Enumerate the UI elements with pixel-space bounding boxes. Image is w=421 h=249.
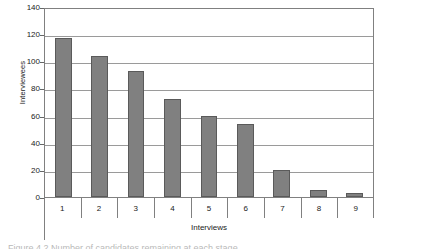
bar-slot [300, 9, 336, 197]
bar-series [45, 9, 373, 197]
bar-slot [81, 9, 117, 197]
y-tick-label: 20 [31, 167, 40, 175]
bar-slot [45, 9, 81, 197]
bar-slot [264, 9, 300, 197]
y-tick-label: 60 [31, 113, 40, 121]
bar-1 [55, 38, 72, 197]
x-category-label: 2 [81, 198, 118, 218]
bar-5 [201, 116, 218, 197]
x-category-label: 3 [117, 198, 154, 218]
bar-7 [273, 170, 290, 197]
y-tick-label: 40 [31, 140, 40, 148]
bar-slot [154, 9, 190, 197]
bar-4 [164, 99, 181, 197]
x-axis-title: Interviews [44, 223, 374, 232]
bar-8 [310, 190, 327, 197]
y-axis-tick-labels: 020406080100120140 [14, 8, 40, 198]
y-tick-label: 120 [27, 31, 40, 39]
x-category-label: 1 [44, 198, 81, 218]
y-tick-label: 140 [27, 4, 40, 12]
bar-slot [227, 9, 263, 197]
cropped-caption: Figure 4.2 Number of candidates remainin… [8, 243, 338, 249]
x-category-label: 9 [337, 198, 374, 218]
y-tick-label: 80 [31, 85, 40, 93]
x-category-label: 7 [264, 198, 301, 218]
x-axis-category-labels: 123456789 [44, 198, 374, 218]
plot-area [44, 8, 374, 198]
bar-slot [118, 9, 154, 197]
bar-6 [237, 124, 254, 197]
bar-chart-figure: Interviewees 020406080100120140 12345678… [0, 0, 421, 249]
bar-slot [191, 9, 227, 197]
bar-slot [337, 9, 373, 197]
bar-9 [346, 193, 363, 197]
bar-3 [128, 71, 145, 197]
y-tick-label: 100 [27, 58, 40, 66]
x-category-label: 4 [154, 198, 191, 218]
x-category-label: 5 [191, 198, 228, 218]
x-category-label: 6 [227, 198, 264, 218]
x-category-label: 8 [301, 198, 338, 218]
bar-2 [91, 56, 108, 197]
